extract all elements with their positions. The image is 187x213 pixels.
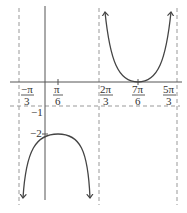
x-label-neg-pi-3: −π 3 [21, 83, 34, 107]
svg-text:7π: 7π [132, 83, 144, 95]
svg-text:3: 3 [24, 95, 30, 107]
svg-text:6: 6 [55, 95, 61, 107]
svg-text:π: π [54, 83, 60, 95]
svg-text:5π: 5π [163, 83, 175, 95]
x-label-2pi-3: 2π 3 [100, 83, 113, 107]
lower-branch-curve [23, 134, 90, 198]
y-label-neg1: −1 [31, 106, 43, 118]
y-label-neg2: −2 [30, 127, 42, 139]
svg-text:6: 6 [135, 95, 141, 107]
svg-text:3: 3 [103, 95, 109, 107]
secant-graph: −π 3 π 6 2π 3 7π 6 5π 3 −1 −2 [0, 0, 187, 213]
svg-text:2π: 2π [100, 83, 112, 95]
svg-text:−π: −π [21, 83, 33, 95]
x-label-5pi-3: 5π 3 [163, 83, 176, 107]
x-label-7pi-6: 7π 6 [132, 83, 145, 107]
x-label-pi-6: π 6 [53, 83, 63, 107]
upper-branch-curve [105, 12, 171, 82]
svg-text:3: 3 [166, 95, 172, 107]
